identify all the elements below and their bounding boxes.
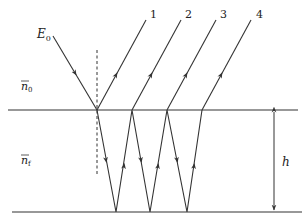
svg-text:nf: nf	[21, 154, 32, 168]
incident-ray	[53, 36, 97, 110]
medium-film-label: nf	[21, 154, 32, 168]
ray-label-2: 2	[185, 8, 192, 21]
thin-film-diagram: E0 n0 nf h 1 2 3 4	[0, 0, 307, 222]
reflected-ray-3	[167, 20, 216, 110]
reflected-ray-1	[97, 20, 146, 110]
incident-label: E0	[36, 27, 51, 43]
reflected-ray-2	[132, 20, 181, 110]
medium-top-label: n0	[21, 80, 33, 94]
reflected-ray-4	[202, 20, 251, 110]
thickness-label: h	[282, 155, 290, 169]
ray-label-1: 1	[150, 8, 157, 21]
svg-text:n0: n0	[21, 80, 33, 94]
internal-ray-path	[97, 110, 202, 212]
ray-label-3: 3	[220, 8, 227, 21]
ray-label-4: 4	[256, 8, 263, 21]
